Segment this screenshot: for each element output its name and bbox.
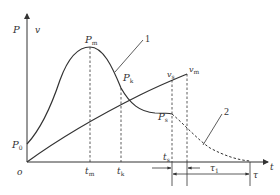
curve2-number: 2 [224, 106, 229, 117]
tk-label: tk [117, 166, 125, 177]
vm-label: vm [189, 65, 200, 75]
pressure-decay-curve-2 [172, 114, 250, 161]
origin-label: o [17, 167, 23, 177]
pm-label: Pm [84, 34, 98, 46]
pressure-velocity-time-diagram: P v t o P0 Pm Pk Ps vs vm tm tk ts τ1 τ … [0, 0, 280, 195]
curve2-leader [203, 114, 222, 145]
curve1-leader [115, 40, 143, 72]
p0-label: P0 [11, 139, 23, 151]
y-axis-label-v: v [35, 25, 40, 35]
tau-label: τ [253, 170, 259, 180]
tm-label: tm [85, 166, 95, 177]
pressure-curve-1 [27, 47, 172, 144]
y-axis-label-p: P [12, 24, 20, 35]
pk-label: Pk [122, 72, 134, 84]
curve1-number: 1 [145, 33, 150, 44]
x-axis-label-t: t [270, 162, 274, 172]
ts-label: ts [163, 152, 170, 163]
tau1-label: τ1 [210, 163, 219, 174]
vs-label: vs [167, 70, 175, 80]
